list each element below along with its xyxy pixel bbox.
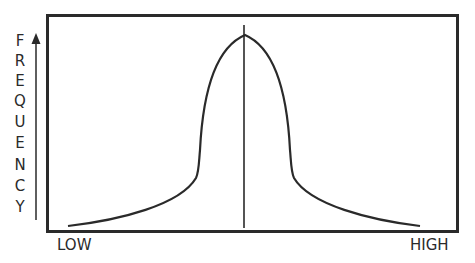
frequency-distribution-diagram bbox=[0, 0, 475, 263]
y-axis-letter: N bbox=[13, 157, 27, 174]
y-axis-letter: E bbox=[13, 135, 27, 152]
y-axis-letter: R bbox=[13, 53, 27, 70]
y-axis-letter: C bbox=[13, 178, 27, 195]
x-axis-high-label: HIGH bbox=[410, 236, 449, 254]
y-axis-letter: F bbox=[13, 33, 27, 50]
x-axis-low-label: LOW bbox=[57, 236, 91, 254]
y-axis-letter: Y bbox=[13, 199, 27, 216]
plot-frame bbox=[48, 16, 458, 232]
y-axis-letter: E bbox=[13, 73, 27, 90]
y-axis-arrow-head-icon bbox=[32, 33, 41, 44]
y-axis-letter: U bbox=[13, 114, 27, 131]
y-axis-letter: Q bbox=[13, 93, 27, 110]
